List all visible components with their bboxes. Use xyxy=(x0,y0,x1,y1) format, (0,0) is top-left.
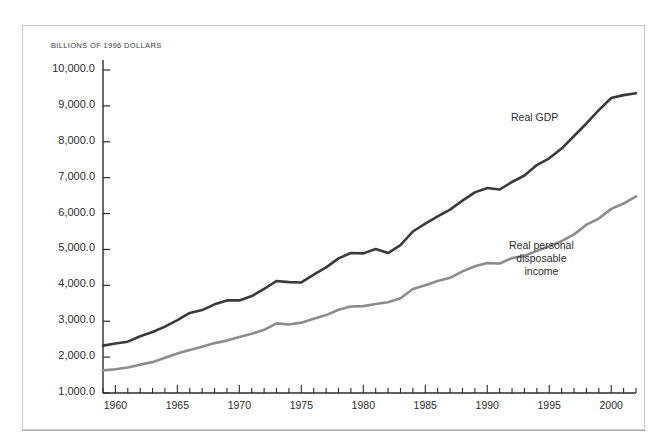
x-axis-tick-label: 1980 xyxy=(341,399,385,411)
y-axis-tick-label: 1,000.0 xyxy=(33,385,95,397)
y-axis-tick-label: 3,000.0 xyxy=(33,313,95,325)
y-axis-tick-label: 4,000.0 xyxy=(33,277,95,289)
series-line xyxy=(103,93,636,345)
series-paths xyxy=(103,93,636,370)
y-axis-tick-label: 9,000.0 xyxy=(33,98,95,110)
x-axis-tick-label: 1985 xyxy=(403,399,447,411)
y-axis-tick-label: 5,000.0 xyxy=(33,241,95,253)
series-label-real-gdp: Real GDP xyxy=(511,111,558,124)
x-axis-tick-label: 1960 xyxy=(93,399,137,411)
axis-lines xyxy=(103,60,636,393)
x-axis-ticks xyxy=(103,385,636,393)
series-line xyxy=(103,196,636,370)
y-axis-tick-label: 10,000.0 xyxy=(33,62,95,74)
x-axis-tick-label: 1970 xyxy=(217,399,261,411)
x-axis-tick-label: 1975 xyxy=(279,399,323,411)
line-chart-svg xyxy=(0,0,668,441)
y-axis-tick-label: 8,000.0 xyxy=(33,134,95,146)
x-axis-tick-label: 1995 xyxy=(527,399,571,411)
x-axis-tick-label: 1965 xyxy=(155,399,199,411)
y-axis-tick-label: 7,000.0 xyxy=(33,170,95,182)
x-axis-tick-label: 1990 xyxy=(465,399,509,411)
y-axis-tick-label: 6,000.0 xyxy=(33,206,95,218)
y-axis-tick-label: 2,000.0 xyxy=(33,349,95,361)
chart-plot-area: BILLIONS OF 1996 DOLLARS 10,000.09,000.0… xyxy=(0,0,668,441)
series-label-real-personal-disposable-income: Real personal disposable income xyxy=(509,239,574,278)
x-axis-tick-label: 2000 xyxy=(589,399,633,411)
